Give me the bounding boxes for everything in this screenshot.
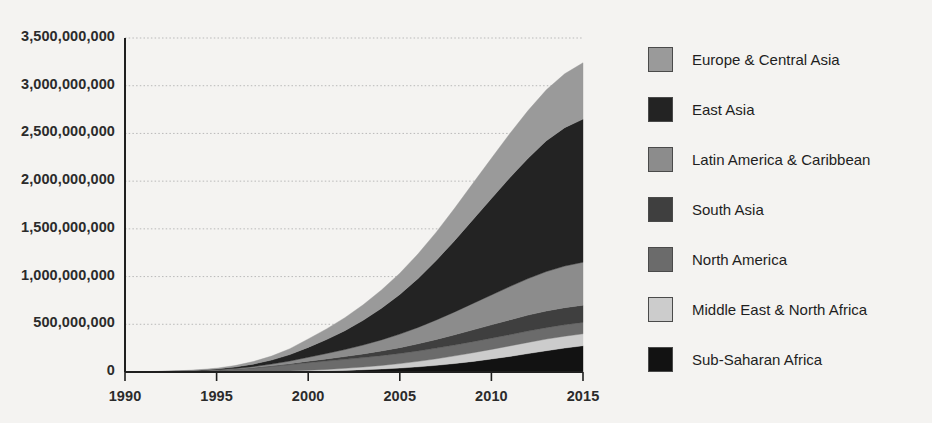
- y-tick-label: 3,500,000,000: [21, 28, 115, 44]
- legend-item-label: Europe & Central Asia: [692, 51, 840, 68]
- legend-item-label: South Asia: [692, 201, 764, 218]
- legend-swatch-icon: [648, 347, 673, 372]
- legend-swatch-icon: [648, 47, 673, 72]
- legend-item-label: Latin America & Caribbean: [692, 151, 870, 168]
- legend-item[interactable]: Sub-Saharan Africa: [648, 334, 928, 384]
- legend-item[interactable]: South Asia: [648, 184, 928, 234]
- legend-item-label: Middle East & North Africa: [692, 301, 867, 318]
- legend-item-label: Sub-Saharan Africa: [692, 351, 822, 368]
- y-tick-label: 1,000,000,000: [21, 267, 115, 283]
- y-tick-label: 0: [107, 362, 115, 378]
- legend-item-label: North America: [692, 251, 787, 268]
- legend-item[interactable]: Europe & Central Asia: [648, 34, 928, 84]
- x-tick-label: 1990: [85, 388, 165, 404]
- x-tick-label: 2015: [543, 388, 623, 404]
- legend-item[interactable]: Middle East & North Africa: [648, 284, 928, 334]
- legend-item[interactable]: Latin America & Caribbean: [648, 134, 928, 184]
- legend-item[interactable]: North America: [648, 234, 928, 284]
- legend-item-label: East Asia: [692, 101, 755, 118]
- y-tick-label: 2,500,000,000: [21, 123, 115, 139]
- legend-swatch-icon: [648, 97, 673, 122]
- x-tick-label: 1995: [177, 388, 257, 404]
- chart-figure: 0500,000,0001,000,000,0001,500,000,0002,…: [0, 0, 932, 423]
- y-tick-label: 1,500,000,000: [21, 219, 115, 235]
- y-tick-label: 500,000,000: [33, 314, 115, 330]
- y-tick-label: 2,000,000,000: [21, 171, 115, 187]
- legend-swatch-icon: [648, 297, 673, 322]
- chart-legend: Europe & Central AsiaEast AsiaLatin Amer…: [648, 34, 928, 384]
- legend-swatch-icon: [648, 197, 673, 222]
- x-tick-label: 2000: [268, 388, 348, 404]
- legend-swatch-icon: [648, 247, 673, 272]
- legend-swatch-icon: [648, 147, 673, 172]
- y-tick-label: 3,000,000,000: [21, 76, 115, 92]
- x-tick-label: 2010: [451, 388, 531, 404]
- x-tick-label: 2005: [360, 388, 440, 404]
- legend-item[interactable]: East Asia: [648, 84, 928, 134]
